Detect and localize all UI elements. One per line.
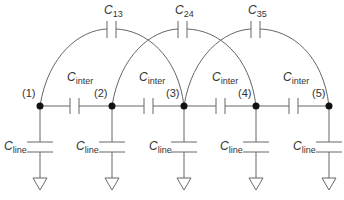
arc-c35 xyxy=(184,21,329,106)
circuit-schematic xyxy=(0,0,344,200)
node-label-3: (3) xyxy=(166,88,179,99)
label-cinter-4: Cinter xyxy=(283,71,309,83)
node-dot-4 xyxy=(253,103,260,110)
label-cinter-1: Cinter xyxy=(67,71,93,83)
line-cap-3 xyxy=(171,106,197,190)
node-label-5: (5) xyxy=(312,88,325,99)
inter-cap-3-4 xyxy=(184,98,256,114)
node-dot-2 xyxy=(109,103,116,110)
line-cap-2 xyxy=(99,106,125,190)
inter-cap-4-5 xyxy=(256,98,329,114)
label-c24: C24 xyxy=(175,4,194,16)
node-dot-1 xyxy=(37,103,44,110)
line-cap-1 xyxy=(27,106,53,190)
label-cline-1: Cline xyxy=(4,140,27,152)
circuit-diagram: (1) (2) (3) (4) (5) C13 C24 C35 Cinter C… xyxy=(0,0,344,200)
line-cap-4 xyxy=(243,106,269,190)
label-cline-2: Cline xyxy=(76,140,99,152)
label-cinter-2: Cinter xyxy=(139,71,165,83)
node-label-1: (1) xyxy=(22,88,35,99)
inter-cap-2-3 xyxy=(112,98,184,114)
arc-c13 xyxy=(40,21,184,106)
inter-cap-1-2 xyxy=(40,98,112,114)
label-cline-4: Cline xyxy=(220,140,243,152)
node-label-2: (2) xyxy=(94,88,107,99)
arc-c24 xyxy=(112,21,256,106)
node-label-4: (4) xyxy=(238,88,251,99)
node-dot-5 xyxy=(326,103,333,110)
node-dot-3 xyxy=(181,103,188,110)
line-cap-5 xyxy=(316,106,342,190)
label-cline-3: Cline xyxy=(149,140,172,152)
label-c35: C35 xyxy=(248,4,267,16)
label-cinter-3: Cinter xyxy=(212,71,238,83)
label-c13: C13 xyxy=(104,4,123,16)
label-cline-5: Cline xyxy=(293,140,316,152)
